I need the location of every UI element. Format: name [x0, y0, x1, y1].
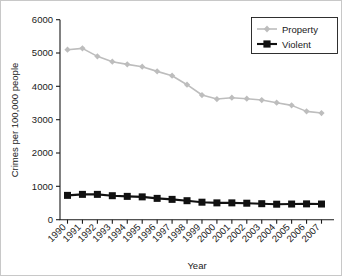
- property-data-point: [289, 102, 295, 108]
- property-data-point: [154, 68, 160, 74]
- property-data-point: [229, 95, 235, 101]
- violent-data-point: [169, 196, 176, 203]
- violent-data-point: [288, 201, 295, 208]
- violent-data-point: [198, 199, 205, 206]
- x-axis-title: Year: [187, 260, 206, 271]
- y-tick-label-4000: 4000: [32, 81, 53, 92]
- violent-series: [64, 191, 325, 208]
- violent-data-point: [64, 192, 71, 199]
- violent-data-point: [213, 199, 220, 206]
- violent-data-point: [109, 192, 116, 199]
- property-data-point: [139, 64, 145, 70]
- x-axis-tick-labels: 1990199119921993199419951996199719981999…: [45, 221, 322, 244]
- legend-label-property: Property: [282, 24, 318, 35]
- violent-data-point: [139, 193, 146, 200]
- y-tick-label-5000: 5000: [32, 47, 53, 58]
- violent-data-point: [318, 201, 325, 208]
- y-axis-ticks: [56, 20, 60, 220]
- violent-markers: [64, 191, 325, 208]
- chart-canvas: 6000 5000 4000 3000 2000 1000 0 1: [1, 1, 341, 275]
- violent-data-point: [154, 195, 161, 202]
- property-markers: [64, 45, 324, 116]
- property-data-point: [259, 97, 265, 103]
- property-data-point: [318, 110, 324, 116]
- crime-rate-line-chart: 6000 5000 4000 3000 2000 1000 0 1: [0, 0, 342, 276]
- property-data-point: [79, 45, 85, 51]
- violent-data-point: [184, 197, 191, 204]
- y-axis-tick-labels: 6000 5000 4000 3000 2000 1000 0: [32, 14, 53, 225]
- property-data-point: [303, 108, 309, 114]
- violent-data-point: [273, 201, 280, 208]
- legend-violent-marker-icon: [263, 40, 270, 47]
- violent-data-point: [124, 193, 131, 200]
- violent-data-point: [258, 200, 265, 207]
- legend-label-violent: Violent: [282, 39, 311, 50]
- chart-legend: Property Violent: [252, 18, 338, 54]
- y-tick-label-0: 0: [48, 214, 53, 225]
- violent-data-point: [228, 199, 235, 206]
- violent-line-path: [68, 194, 322, 204]
- y-tick-label-3000: 3000: [32, 114, 53, 125]
- y-tick-label-1000: 1000: [32, 181, 53, 192]
- property-data-point: [94, 53, 100, 59]
- property-data-point: [64, 47, 70, 53]
- y-tick-label-6000: 6000: [32, 14, 53, 25]
- property-data-point: [244, 96, 250, 102]
- violent-data-point: [79, 191, 86, 198]
- y-tick-label-2000: 2000: [32, 147, 53, 158]
- y-axis-title: Crimes per 100,000 people: [9, 63, 20, 178]
- property-data-point: [214, 96, 220, 102]
- violent-data-point: [303, 200, 310, 207]
- property-data-point: [109, 59, 115, 65]
- violent-data-point: [94, 191, 101, 198]
- property-data-point: [124, 61, 130, 67]
- property-series: [64, 45, 324, 116]
- property-line-path: [68, 48, 322, 113]
- property-data-point: [274, 100, 280, 106]
- violent-data-point: [243, 200, 250, 207]
